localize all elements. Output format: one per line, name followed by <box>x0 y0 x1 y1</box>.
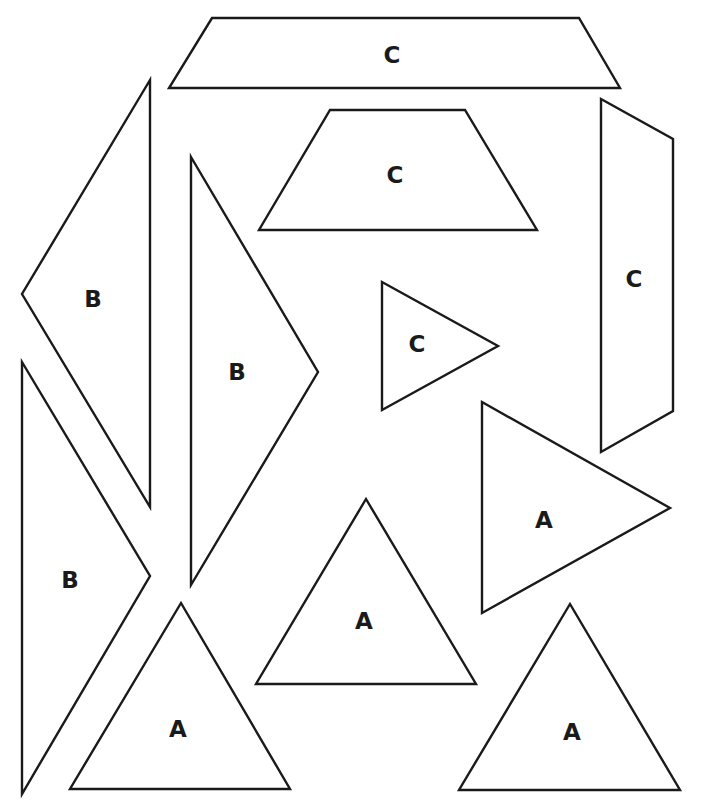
shape-label: B <box>61 567 79 593</box>
triangle-shape <box>256 499 476 684</box>
shape-label: C <box>626 266 643 292</box>
shape-label: C <box>409 331 426 357</box>
shape-c-wide-trapezoid: C <box>169 18 620 88</box>
shape-label: C <box>387 162 404 188</box>
shape-label: A <box>563 719 581 745</box>
shape-label: A <box>169 716 187 742</box>
shape-a-center-triangle: A <box>256 499 476 684</box>
shape-label: A <box>535 507 553 533</box>
triangle-shape <box>459 604 680 790</box>
shape-c-trapezoid: C <box>259 110 537 230</box>
shape-label: B <box>84 286 102 312</box>
triangle-shape <box>482 402 670 613</box>
shape-a-bottom-right-triangle: A <box>459 604 680 790</box>
triangle-shape <box>382 282 498 410</box>
shape-label: A <box>355 608 373 634</box>
shape-sorting-canvas: C C C C B B B A A A A <box>0 0 702 811</box>
shape-c-small-triangle: C <box>382 282 498 410</box>
shape-label: B <box>228 359 246 385</box>
shape-label: C <box>384 42 401 68</box>
shape-c-vertical-quad: C <box>601 99 673 452</box>
shape-a-rotated-triangle: A <box>482 402 670 613</box>
